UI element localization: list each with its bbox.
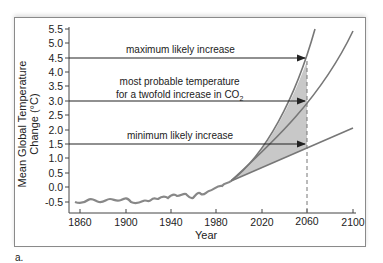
svg-text:3.0: 3.0 bbox=[48, 95, 63, 107]
svg-text:1900: 1900 bbox=[114, 216, 138, 228]
y-ticks bbox=[65, 29, 69, 202]
y-axis-label: Mean Global Temperature Change (°C) bbox=[16, 44, 40, 204]
figure-caption: a. bbox=[15, 252, 23, 263]
svg-text:4.0: 4.0 bbox=[48, 66, 63, 78]
svg-text:1.0: 1.0 bbox=[48, 152, 63, 164]
svg-text:2060: 2060 bbox=[295, 215, 319, 227]
observed-series bbox=[75, 181, 231, 203]
svg-text:4.5: 4.5 bbox=[48, 52, 63, 64]
svg-text:5.0: 5.0 bbox=[48, 37, 63, 49]
annotation-mid: most probable temperature for a twofold … bbox=[116, 75, 243, 105]
x-axis-label: Year bbox=[195, 229, 217, 241]
svg-text:2020: 2020 bbox=[250, 216, 274, 228]
svg-text:1980: 1980 bbox=[204, 216, 228, 228]
svg-text:2.0: 2.0 bbox=[48, 124, 63, 136]
svg-text:-0.5: -0.5 bbox=[45, 196, 63, 208]
svg-text:1860: 1860 bbox=[68, 216, 92, 228]
svg-text:1940: 1940 bbox=[159, 216, 183, 228]
annotation-max: maximum likely increase bbox=[126, 43, 235, 56]
svg-text:1.5: 1.5 bbox=[48, 138, 63, 150]
svg-text:0.5: 0.5 bbox=[48, 167, 63, 179]
x-ticks bbox=[80, 209, 353, 213]
svg-text:0.0: 0.0 bbox=[48, 181, 63, 193]
svg-text:2.5: 2.5 bbox=[48, 109, 63, 121]
svg-text:3.5: 3.5 bbox=[48, 80, 63, 92]
svg-text:5.5: 5.5 bbox=[48, 23, 63, 35]
x-tick-labels: 1860 1900 1940 1980 2020 2060 2100 bbox=[68, 215, 365, 228]
annotation-min: minimum likely increase bbox=[127, 129, 233, 142]
svg-text:2100: 2100 bbox=[341, 216, 365, 228]
y-tick-labels: 5.5 5.0 4.5 4.0 3.5 3.0 2.5 2.0 1.5 1.0 … bbox=[45, 23, 63, 208]
